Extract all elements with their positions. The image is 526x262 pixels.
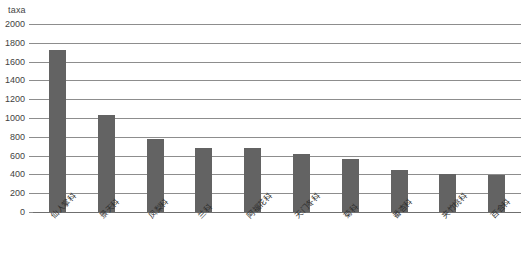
x-axis-tick-labels: 仙人掌科景天科凤梨科兰科阿福花科天门冬科菊科番杏科夹竹桃科百合科 <box>33 214 521 262</box>
y-tick-label: 0 <box>0 208 25 217</box>
bar-chart: taxa 20001800160014001200100080060040020… <box>0 0 526 262</box>
bar[interactable] <box>195 148 212 212</box>
tick-mark-0 <box>29 212 33 213</box>
y-tick-label: 200 <box>0 189 25 198</box>
y-tick-label: 800 <box>0 133 25 142</box>
y-tick-label: 1200 <box>0 95 25 104</box>
y-tick-label: 1000 <box>0 114 25 123</box>
bar[interactable] <box>98 115 115 212</box>
y-tick-label: 600 <box>0 152 25 161</box>
y-tick-label: 1600 <box>0 58 25 67</box>
plot-area <box>33 24 521 212</box>
bar[interactable] <box>49 50 66 212</box>
bar-series <box>33 24 521 212</box>
y-tick-label: 1400 <box>0 76 25 85</box>
chart-title <box>0 0 526 1</box>
y-tick-label: 400 <box>0 170 25 179</box>
y-tick-label: 1800 <box>0 39 25 48</box>
y-tick-label: 2000 <box>0 20 25 29</box>
y-axis-unit-label: taxa <box>8 5 26 15</box>
